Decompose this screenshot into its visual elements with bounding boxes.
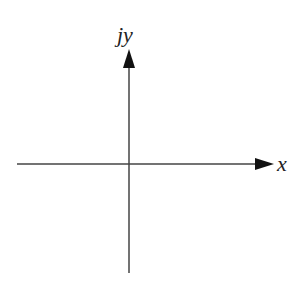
x-axis-arrowhead-icon bbox=[255, 158, 274, 170]
y-axis-arrowhead-icon bbox=[123, 49, 135, 68]
y-axis-label: jy bbox=[114, 22, 133, 47]
x-axis-label: x bbox=[276, 151, 287, 176]
axes-diagram: jy x bbox=[0, 0, 303, 287]
